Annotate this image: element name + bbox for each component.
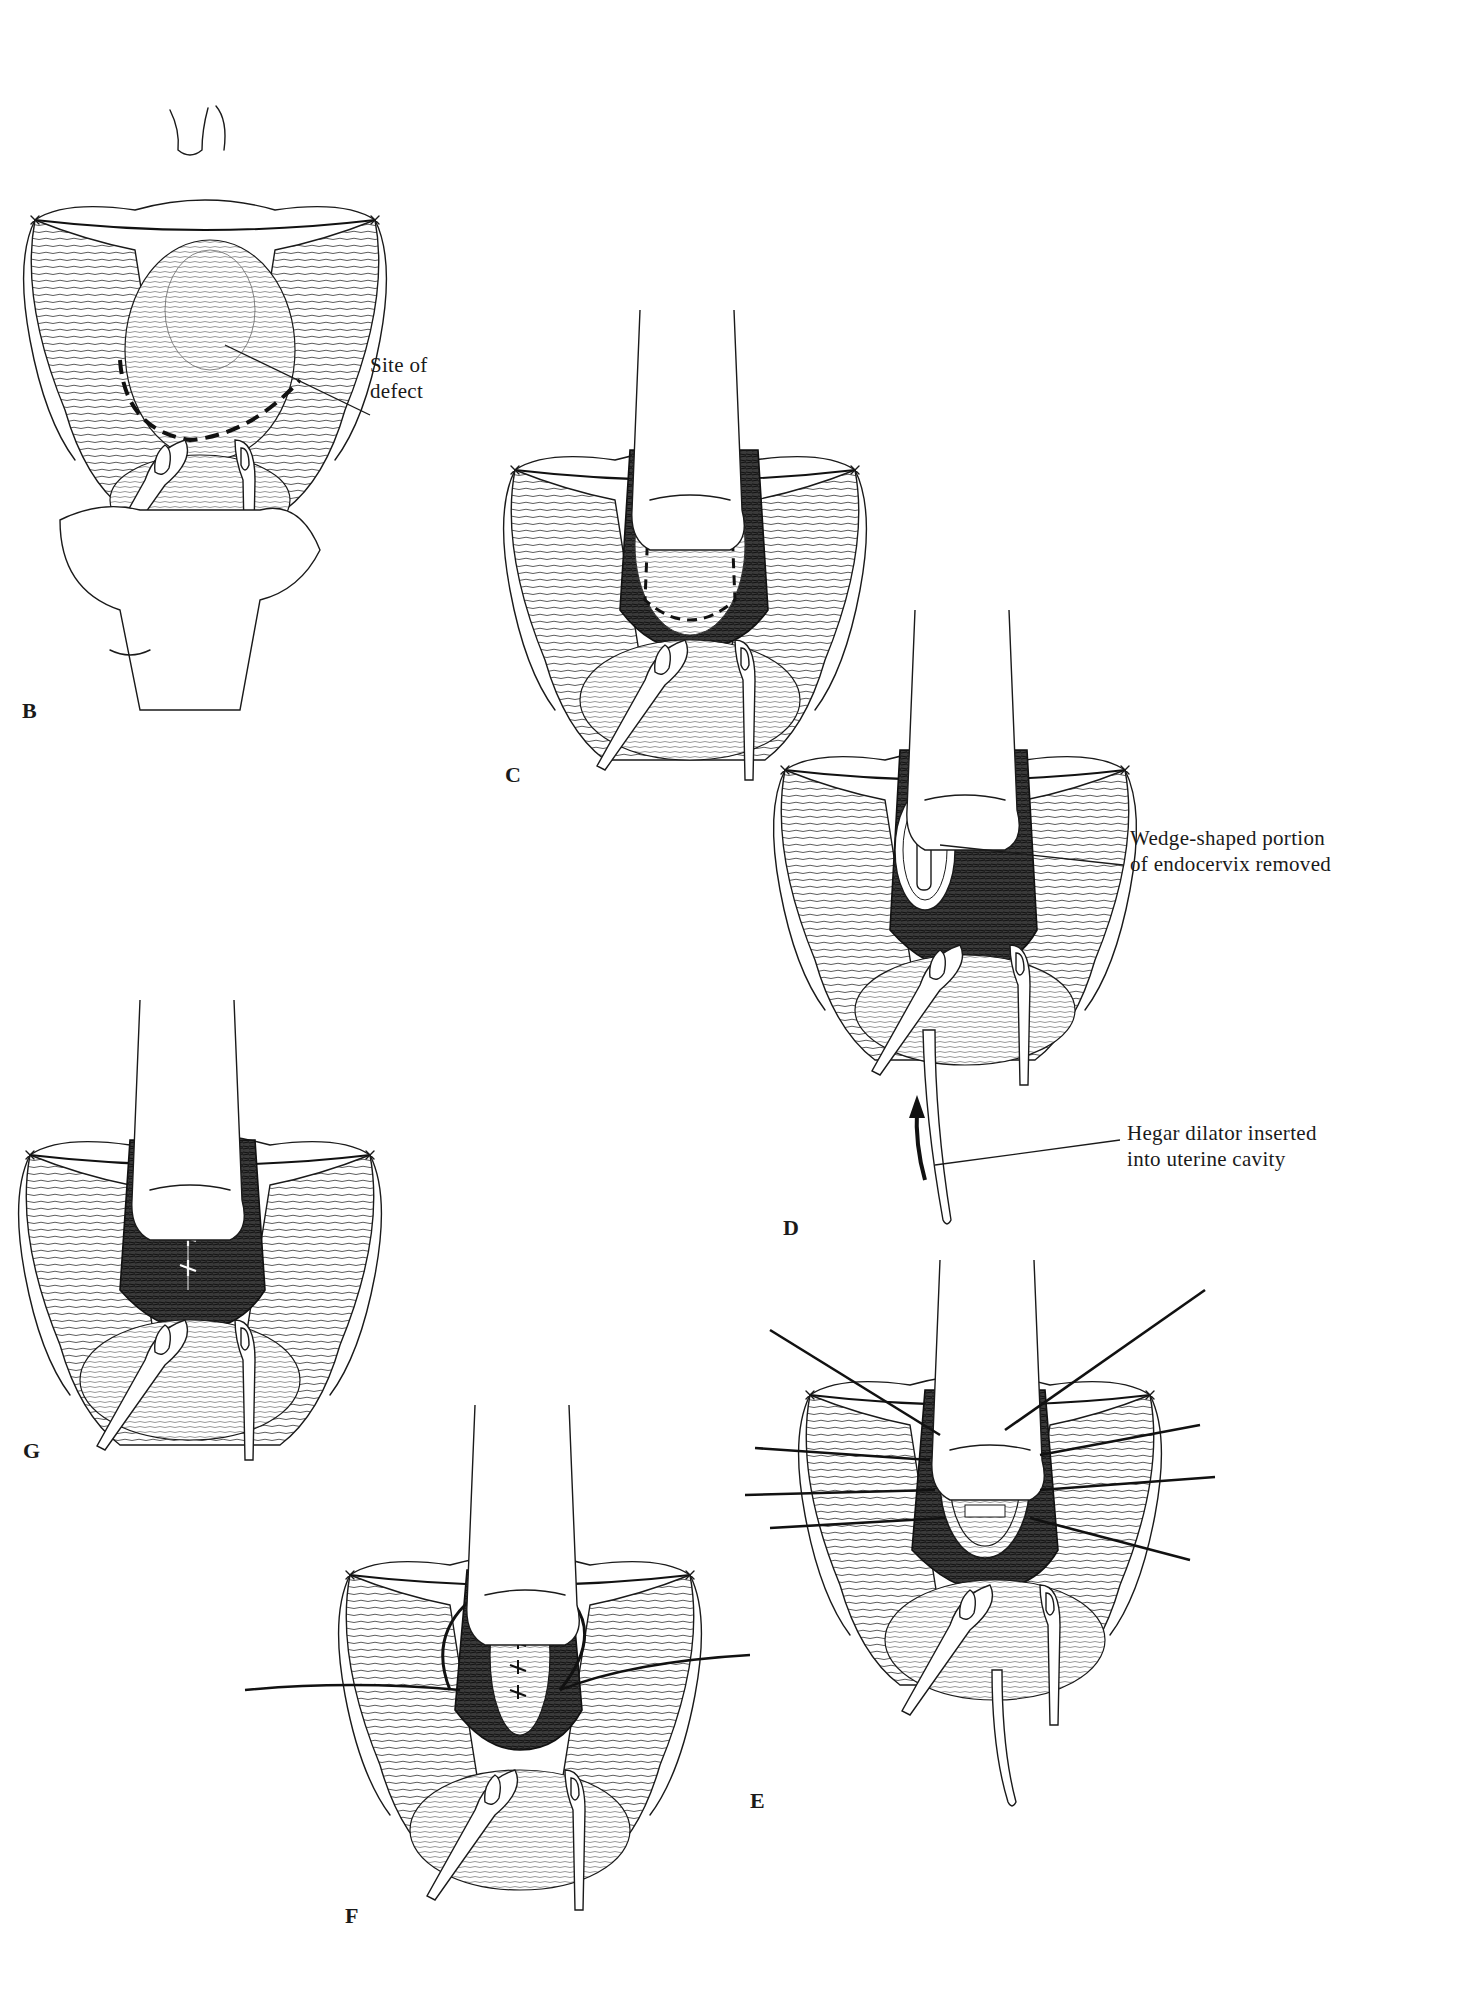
panel-f: F: [230, 1390, 770, 1970]
callout-hegar-dilator: Hegar dilator inserted into uterine cavi…: [1127, 1120, 1317, 1172]
callout-wedge-shaped-portion: Wedge-shaped portion of endocervix remov…: [1130, 825, 1331, 877]
panel-e: E: [740, 1250, 1220, 1810]
panel-f-illustration: [230, 1390, 770, 1970]
panel-d: Wedge-shaped portion of endocervix remov…: [775, 640, 1415, 1260]
callout-site-of-defect: Site of defect: [370, 352, 428, 404]
panel-letter-f: F: [345, 1903, 358, 1929]
panel-e-illustration: [740, 1250, 1220, 1810]
panel-letter-c: C: [505, 762, 521, 788]
panel-d-illustration: [775, 640, 1415, 1260]
panel-letter-g: G: [23, 1438, 40, 1464]
panel-letter-b: B: [22, 698, 37, 724]
leader-hegar-dilator: [935, 1140, 1120, 1165]
panel-b: Site of defect B: [20, 90, 460, 710]
panel-letter-d: D: [783, 1215, 799, 1241]
